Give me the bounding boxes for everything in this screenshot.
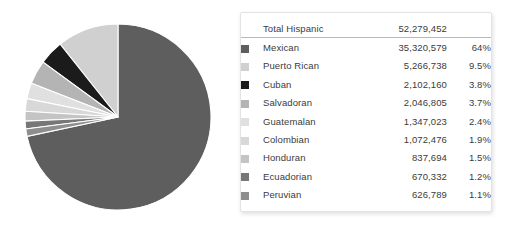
legend-row-percent: 1.5% xyxy=(447,149,491,167)
legend-row-percent: 1.9% xyxy=(447,130,491,148)
legend-row[interactable]: Puerto Rican5,266,7389.5% xyxy=(241,57,491,75)
legend-table-body: Total Hispanic 52,279,452 Mexican35,320,… xyxy=(241,19,491,204)
pie-chart-figure xyxy=(24,23,212,211)
legend-panel: Total Hispanic 52,279,452 Mexican35,320,… xyxy=(240,12,492,212)
legend-row[interactable]: Guatemalan1,347,0232.4% xyxy=(241,112,491,130)
legend-row-label: Cuban xyxy=(263,75,365,93)
legend-total-value: 52,279,452 xyxy=(365,19,447,38)
legend-row-label: Honduran xyxy=(263,149,365,167)
legend-row-label: Colombian xyxy=(263,130,365,148)
legend-total-label: Total Hispanic xyxy=(263,19,365,38)
legend-total-percent xyxy=(447,19,491,38)
legend-total-row: Total Hispanic 52,279,452 xyxy=(241,19,491,38)
legend-row-value: 35,320,579 xyxy=(365,38,447,57)
legend-swatch-cell xyxy=(241,38,263,57)
legend-swatch-cell xyxy=(241,112,263,130)
legend-row-label: Ecuadorian xyxy=(263,167,365,185)
legend-swatch-cell xyxy=(241,186,263,204)
legend-row-label: Mexican xyxy=(263,38,365,57)
legend-swatch-cell xyxy=(241,149,263,167)
legend-row-percent: 1.1% xyxy=(447,186,491,204)
legend-swatch-cell xyxy=(241,167,263,185)
legend-row-value: 2,102,160 xyxy=(365,75,447,93)
legend-row-label: Puerto Rican xyxy=(263,57,365,75)
pie-slice-group xyxy=(25,24,211,210)
legend-row-value: 837,694 xyxy=(365,149,447,167)
legend-row[interactable]: Cuban2,102,1603.8% xyxy=(241,75,491,93)
legend-row-label: Peruvian xyxy=(263,186,365,204)
legend-row-label: Guatemalan xyxy=(263,112,365,130)
legend-row-value: 1,347,023 xyxy=(365,112,447,130)
legend-row-value: 670,332 xyxy=(365,167,447,185)
legend-row-percent: 2.4% xyxy=(447,112,491,130)
legend-color-swatch xyxy=(241,173,249,181)
legend-color-swatch xyxy=(241,100,249,108)
legend-color-swatch xyxy=(241,155,249,163)
legend-color-swatch xyxy=(241,81,249,89)
legend-color-swatch xyxy=(241,137,249,145)
legend-color-swatch xyxy=(241,192,249,200)
legend-swatch-cell xyxy=(241,94,263,112)
legend-swatch-cell xyxy=(241,75,263,93)
legend-row-percent: 9.5% xyxy=(447,57,491,75)
legend-row[interactable]: Salvadoran2,046,8053.7% xyxy=(241,94,491,112)
legend-row-label: Salvadoran xyxy=(263,94,365,112)
legend-row-percent: 64% xyxy=(447,38,491,57)
legend-color-swatch xyxy=(241,118,249,126)
legend-row-value: 1,072,476 xyxy=(365,130,447,148)
legend-row-value: 626,789 xyxy=(365,186,447,204)
legend-color-swatch xyxy=(241,45,249,53)
legend-row[interactable]: Peruvian626,7891.1% xyxy=(241,186,491,204)
legend-row-percent: 3.7% xyxy=(447,94,491,112)
pie-chart-svg xyxy=(24,23,212,211)
legend-table: Total Hispanic 52,279,452 Mexican35,320,… xyxy=(241,19,491,204)
legend-row[interactable]: Mexican35,320,57964% xyxy=(241,38,491,57)
legend-color-swatch xyxy=(241,63,249,71)
legend-row-percent: 1.2% xyxy=(447,167,491,185)
legend-swatch-cell xyxy=(241,57,263,75)
legend-row-value: 5,266,738 xyxy=(365,57,447,75)
legend-row-percent: 3.8% xyxy=(447,75,491,93)
legend-row[interactable]: Ecuadorian670,3321.2% xyxy=(241,167,491,185)
legend-total-swatch-cell xyxy=(241,19,263,38)
legend-row[interactable]: Honduran837,6941.5% xyxy=(241,149,491,167)
legend-row-value: 2,046,805 xyxy=(365,94,447,112)
legend-row[interactable]: Colombian1,072,4761.9% xyxy=(241,130,491,148)
legend-swatch-cell xyxy=(241,130,263,148)
